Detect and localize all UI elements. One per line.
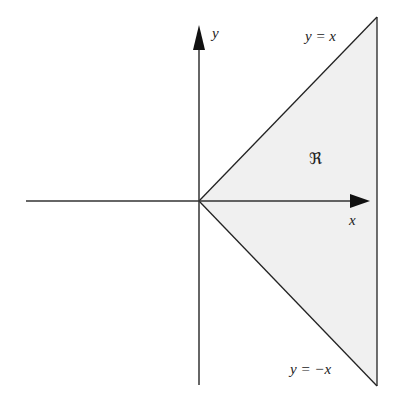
x-axis-label: x [348, 212, 356, 228]
region-diagram: y x y = x y = −x ℜ [0, 0, 397, 402]
upper-line-label: y = x [303, 28, 336, 44]
y-axis-label: y [210, 25, 219, 41]
region-label: ℜ [309, 149, 322, 168]
lower-line-label: y = −x [288, 361, 331, 377]
y-axis-arrow-icon [193, 25, 205, 50]
